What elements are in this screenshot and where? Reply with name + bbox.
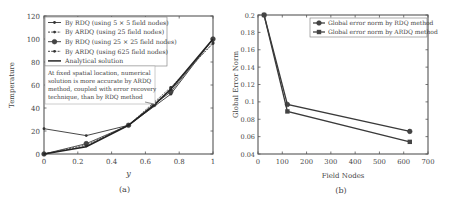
- x-tick-label: 100: [276, 158, 289, 166]
- annotation-line: technique, than by RDQ method: [48, 94, 143, 101]
- data-point: [43, 127, 46, 130]
- annotation-line: At fixed spatial location, numerical: [47, 70, 151, 77]
- x-axis-label: y: [125, 169, 131, 178]
- y-tick-label: 120: [27, 13, 40, 21]
- legend-entry: By ARDQ (using 625 field nodes): [65, 48, 168, 56]
- legend: Global error norm by RDQ methodGlobal er…: [310, 18, 438, 37]
- x-tick-label: 0: [256, 158, 260, 166]
- legend-marker: [52, 39, 57, 44]
- data-point: [407, 129, 412, 134]
- legend-entry: Global error norm by RDQ method: [328, 19, 434, 27]
- y-axis-label: Global Error Norm: [232, 51, 240, 118]
- x-tick-label: 700: [422, 158, 435, 166]
- legend: By RDQ (using 5 × 5 field nodes)By ARDQ …: [45, 17, 177, 66]
- y-tick-label: 100: [27, 36, 40, 44]
- legend-marker: [317, 21, 322, 26]
- x-tick-label: 400: [349, 158, 362, 166]
- legend-entry: By RDQ (using 5 × 5 field nodes): [65, 19, 169, 27]
- y-tick-label: 0.06: [241, 133, 255, 141]
- data-point: [212, 41, 215, 44]
- x-tick-label: 0.8: [174, 158, 185, 166]
- data-point: [285, 109, 289, 113]
- y-tick-label: 20: [31, 128, 40, 136]
- y-tick-label: 40: [31, 105, 40, 113]
- chart-a: 00.20.40.60.81020406080100120yTemperatur…: [0, 0, 230, 206]
- y-tick-label: 0: [36, 151, 40, 159]
- legend-marker: [317, 30, 321, 34]
- x-tick-label: 300: [324, 158, 337, 166]
- x-tick-label: 200: [300, 158, 313, 166]
- y-axis-label: Temperature: [8, 62, 16, 108]
- data-point: [262, 13, 266, 17]
- y-tick-label: 0.08: [241, 116, 255, 124]
- y-tick-label: 0.04: [241, 151, 255, 159]
- annotation: At fixed spatial location, numericalsolu…: [45, 66, 157, 104]
- y-tick-label: 0.18: [241, 29, 255, 37]
- y-tick-label: 0.1: [245, 98, 255, 106]
- y-tick-label: 0.14: [241, 64, 255, 72]
- x-tick-label: 0.2: [72, 158, 83, 166]
- y-tick-label: 60: [31, 82, 40, 90]
- x-tick-label: 1: [211, 158, 215, 166]
- legend-marker: [53, 31, 56, 34]
- y-tick-label: 0.16: [241, 46, 255, 54]
- x-tick-label: 500: [373, 158, 386, 166]
- x-tick-label: 0.6: [140, 158, 152, 166]
- annotation-line: solution is more accurate by ARDQ: [48, 78, 152, 85]
- y-tick-label: 0.12: [241, 81, 255, 89]
- x-axis-label: Field Nodes: [322, 172, 365, 180]
- x-tick-label: 600: [397, 158, 410, 166]
- x-tick-label: 0: [42, 158, 46, 166]
- y-tick-label: 0.2: [245, 12, 255, 20]
- y-tick-label: 80: [31, 59, 40, 67]
- chart-b: 01002003004005006007000.040.060.080.10.1…: [230, 0, 452, 206]
- annotation-line: method, coupled with error recovery: [48, 86, 157, 93]
- legend-marker: [53, 50, 56, 53]
- legend-entry: Global error norm by ARDQ method: [328, 28, 438, 36]
- x-tick-label: 0.4: [106, 158, 118, 166]
- legend-marker: [53, 21, 56, 24]
- legend-entry: By ARDQ (using 25 field nodes): [65, 28, 164, 36]
- data-point: [408, 140, 412, 144]
- legend-entry: Analytical solution: [64, 57, 123, 65]
- data-point: [85, 134, 88, 137]
- panel-label: (a): [119, 185, 130, 194]
- legend-entry: By RDQ (using 25 × 25 field nodes): [65, 38, 177, 46]
- panel-label: (b): [335, 186, 346, 195]
